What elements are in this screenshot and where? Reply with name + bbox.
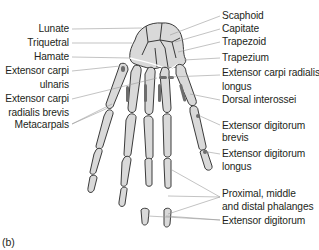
label-phalanges: Proximal, middleand distal phalanges xyxy=(222,188,313,213)
label-extensor-digitorum: Extensor digitorum xyxy=(222,215,305,227)
metacarpal-4 xyxy=(128,65,141,112)
label-metacarpals: Metacarpals xyxy=(15,119,69,131)
label-extensor-digitorum-brevis: Extensor digitorumbrevis xyxy=(222,120,305,144)
label-extensor-carpi-ulnaris: Extensor carpiulnaris xyxy=(5,65,69,91)
hand-skeleton-diagram: Lunate Triquetral Hamate Extensor carpiu… xyxy=(0,0,319,250)
metacarpal-2 xyxy=(160,67,171,112)
label-extensor-carpi-radialis-brevis: Extensor carpiradialis brevis xyxy=(5,93,69,119)
metacarpal-1-thumb xyxy=(176,64,196,105)
label-hamate: Hamate xyxy=(34,51,69,63)
label-triquetral: Triquetral xyxy=(27,37,69,49)
carpal-block xyxy=(130,23,186,69)
label-extensor-digitorum-longus: Extensor digitorumlongus xyxy=(222,148,305,173)
label-trapezoid: Trapezoid xyxy=(222,36,266,48)
label-trapezium: Trapezium xyxy=(222,52,269,64)
label-dorsal-interossei: Dorsal interossei xyxy=(222,94,296,106)
label-lunate: Lunate xyxy=(38,23,69,35)
figure-caption: (b) xyxy=(2,236,15,248)
label-extensor-carpi-radialis-longus: Extensor carpi radialislongus xyxy=(222,67,319,93)
label-capitate: Capitate xyxy=(222,23,259,35)
label-scaphoid: Scaphoid xyxy=(222,10,264,22)
